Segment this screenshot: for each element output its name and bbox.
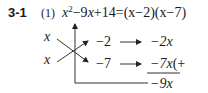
product-bottom: −7x(+: [150, 57, 185, 71]
product-top: −2x: [150, 35, 173, 49]
sum-result: −9x: [150, 77, 173, 91]
const-bottom: −7: [96, 57, 111, 71]
trailing-plus: (+: [173, 56, 186, 71]
const-top: −2: [96, 35, 111, 49]
